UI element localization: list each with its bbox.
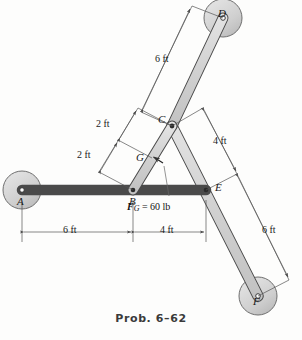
joint-label-D: D: [218, 8, 226, 19]
joint-label-A: A: [17, 196, 24, 207]
dimension-label-EF: 6 ft: [262, 225, 276, 235]
joint-label-C: C: [158, 114, 165, 125]
joint-label-G: G: [136, 152, 144, 163]
dimension-label-CD: 6 ft: [155, 54, 169, 64]
joint-label-E: E: [215, 182, 222, 193]
load-label-value: = 60 lb: [139, 201, 170, 212]
load-label-symbol: F: [127, 201, 134, 212]
dimension-label-CE: 4 ft: [213, 136, 227, 146]
dimension-label-AB: 6 ft: [63, 225, 77, 235]
member-CD: [172, 18, 223, 126]
dimension-label-BG: 2 ft: [77, 150, 91, 160]
joint-label-F: F: [253, 296, 260, 307]
frame-diagram-canvas: [0, 0, 302, 340]
pin-dot-A: [20, 188, 25, 193]
member-CF: [172, 126, 258, 296]
load-label-FG: FG = 60 lb: [127, 202, 170, 213]
dimension-line-horizontal: [22, 200, 206, 242]
dimension-label-BE: 4 ft: [160, 225, 174, 235]
figure-caption: Prob. 6–62: [0, 312, 302, 325]
dimension-label-GC: 2 ft: [96, 119, 110, 129]
